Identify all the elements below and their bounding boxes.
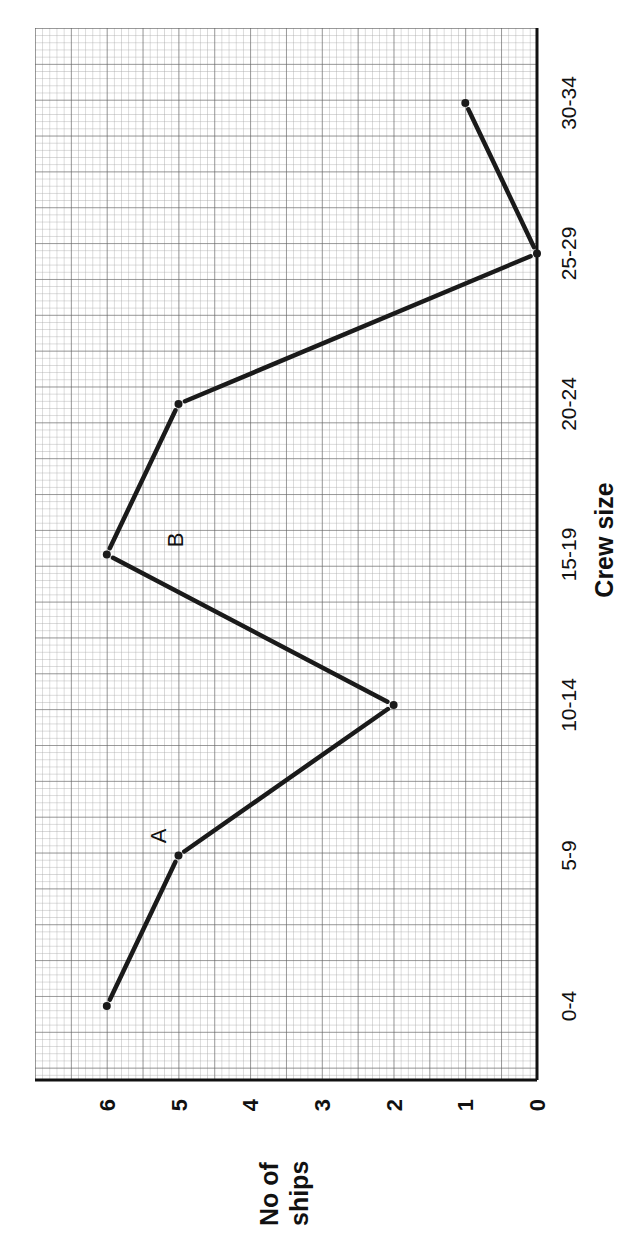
- y-tick-label: 1: [453, 1099, 478, 1111]
- y-tick-label: 4: [238, 1098, 263, 1111]
- x-tick-label: 5-9: [557, 840, 580, 870]
- data-point: [175, 400, 183, 408]
- data-point: [103, 1002, 111, 1010]
- data-point: [533, 250, 541, 258]
- y-tick-label: 3: [310, 1099, 335, 1111]
- svg-text:ships: ships: [285, 1161, 313, 1226]
- y-axis-title: No of ships: [255, 1161, 313, 1226]
- y-axis-ticks: 0123456: [95, 1098, 550, 1111]
- x-tick-label: 15-19: [557, 528, 580, 582]
- x-tick-label: 20-24: [557, 377, 580, 431]
- data-point: [461, 99, 469, 107]
- x-tick-label: 0-4: [557, 991, 580, 1022]
- data-point: [103, 551, 111, 559]
- y-tick-label: 5: [167, 1099, 192, 1111]
- y-tick-label: 0: [525, 1099, 550, 1111]
- x-tick-label: 25-29: [557, 227, 580, 281]
- annotation-b: B: [163, 533, 188, 548]
- x-axis-ticks: 0-45-910-1415-1920-2425-2930-34: [557, 76, 580, 1021]
- data-point: [390, 701, 398, 709]
- x-axis-title: Crew size: [590, 482, 618, 597]
- annotation-a: A: [146, 828, 171, 843]
- line-chart: 0123456 0-45-910-1415-1920-2425-2930-34 …: [0, 0, 631, 1251]
- x-tick-label: 10-14: [557, 678, 580, 732]
- svg-text:No of: No of: [255, 1161, 283, 1226]
- y-tick-label: 2: [382, 1099, 407, 1111]
- data-point: [175, 852, 183, 860]
- y-tick-label: 6: [95, 1099, 120, 1111]
- x-tick-label: 30-34: [557, 76, 580, 130]
